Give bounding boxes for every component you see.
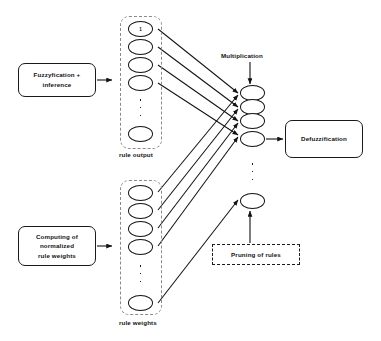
diagram-canvas: 1 <box>0 0 381 341</box>
rule-output-to-multiplication-links <box>158 29 238 135</box>
rule-weights-to-multiplication-links <box>158 95 238 246</box>
rule-output-node-1[interactable]: 1 <box>128 21 153 37</box>
multiplication-node-4[interactable] <box>240 131 265 147</box>
multiplication-node-5[interactable] <box>240 193 265 209</box>
rule-weights-node-4[interactable] <box>128 239 153 255</box>
multiplication-ellipsis <box>251 163 254 180</box>
computing-line-1: Computing of <box>36 233 78 240</box>
pruning-label: Pruning of rules <box>231 251 281 258</box>
rule-weights-node-3[interactable] <box>128 221 153 237</box>
rule-weights-node-5[interactable] <box>128 295 153 311</box>
rule-output-node-1-label: 1 <box>139 27 142 32</box>
fuzzyfication-line-1: Fuzzyfication + <box>34 71 81 78</box>
connection-wires <box>0 0 381 341</box>
rule-output-node-2[interactable] <box>128 39 153 55</box>
rule-output-ellipsis <box>139 99 142 116</box>
fuzzyfication-line-2: inference <box>43 81 72 88</box>
multiplication-node-3[interactable] <box>240 113 265 129</box>
rule-weights-ellipsis <box>139 265 142 282</box>
computing-line-3: rule weights <box>38 252 76 259</box>
rule-weights-node-1[interactable] <box>128 185 153 201</box>
defuzzification-label: Defuzzification <box>301 134 347 144</box>
rule-output-node-5[interactable] <box>128 126 153 142</box>
rule-output-caption: rule output <box>119 151 153 158</box>
defuzzification-box[interactable]: Defuzzification <box>285 120 363 158</box>
rule-weights-caption: rule weights <box>119 319 157 326</box>
computing-line-2: normalized <box>40 242 74 249</box>
pruning-of-rules-box[interactable]: Pruning of rules <box>212 244 300 265</box>
fuzzyfication-inference-box[interactable]: Fuzzyfication + inference <box>18 63 96 97</box>
multiplication-caption: Multiplication <box>221 52 263 59</box>
computing-normalized-rule-weights-box[interactable]: Computing of normalized rule weights <box>18 226 96 266</box>
rule-output-node-4[interactable] <box>128 75 153 91</box>
rule-weights-node-2[interactable] <box>128 203 153 219</box>
rule-output-node-3[interactable] <box>128 57 153 73</box>
